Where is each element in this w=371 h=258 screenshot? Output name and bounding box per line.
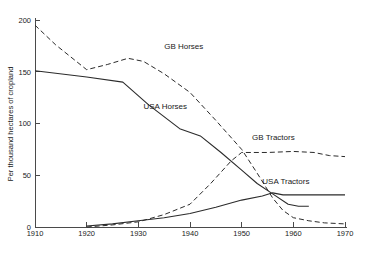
x-tick-label: 1970 xyxy=(337,229,354,238)
x-tick-label: 1920 xyxy=(78,229,95,238)
x-axis: 1910192019301940195019601970 xyxy=(27,222,354,238)
series-line-usa-tractors xyxy=(87,193,345,226)
series-labels: GB HorsesUSA HorsesGB TractorsUSA Tracto… xyxy=(144,42,310,186)
x-tick-label: 1960 xyxy=(285,229,302,238)
x-tick-label: 1950 xyxy=(233,229,250,238)
y-axis: 050100150200 xyxy=(18,16,40,232)
series-lines xyxy=(35,25,345,227)
y-axis-title: Per thousand hectares of cropland xyxy=(6,67,15,182)
series-label-usa-horses: USA Horses xyxy=(144,102,188,111)
series-label-gb-horses: GB Horses xyxy=(164,42,203,51)
chart-container: 050100150200 191019201930194019501960197… xyxy=(0,0,371,258)
y-tick-label: 100 xyxy=(18,119,31,128)
x-tick-label: 1910 xyxy=(27,229,44,238)
x-tick-label: 1940 xyxy=(182,229,199,238)
series-line-gb-horses xyxy=(35,25,345,224)
series-line-gb-tractors xyxy=(87,151,345,227)
x-tick-label: 1930 xyxy=(130,229,147,238)
series-label-usa-tractors: USA Tractors xyxy=(262,177,309,186)
y-tick-label: 200 xyxy=(18,16,31,25)
line-chart: 050100150200 191019201930194019501960197… xyxy=(0,0,371,258)
y-tick-label: 150 xyxy=(18,68,31,77)
y-tick-label: 50 xyxy=(23,171,31,180)
series-label-gb-tractors: GB Tractors xyxy=(252,133,295,142)
